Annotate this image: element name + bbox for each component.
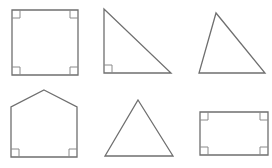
shape-right-triangle (104, 9, 171, 73)
shape-rectangle (200, 112, 268, 155)
shapes-diagram (0, 0, 272, 168)
right-angle-mark-icon (12, 10, 20, 18)
pentagon-outline (11, 90, 77, 157)
right-angle-mark-icon (260, 147, 268, 155)
right-angle-mark-icon (200, 112, 208, 120)
right-angle-mark-icon (11, 149, 19, 157)
shape-acute-triangle (199, 13, 265, 73)
shape-pentagon (11, 90, 77, 157)
shape-isosceles-triangle (105, 100, 173, 156)
square-outline (12, 10, 78, 75)
right-angle-mark-icon (70, 67, 78, 75)
right-angle-mark-icon (12, 67, 20, 75)
right-angle-mark-icon (104, 65, 112, 73)
shape-square (12, 10, 78, 75)
right-angle-mark-icon (260, 112, 268, 120)
acute-triangle-outline (199, 13, 265, 73)
rectangle-outline (200, 112, 268, 155)
right-angle-mark-icon (200, 147, 208, 155)
right-triangle-outline (104, 9, 171, 73)
right-angle-mark-icon (69, 149, 77, 157)
right-angle-mark-icon (70, 10, 78, 18)
isosceles-triangle-outline (105, 100, 173, 156)
